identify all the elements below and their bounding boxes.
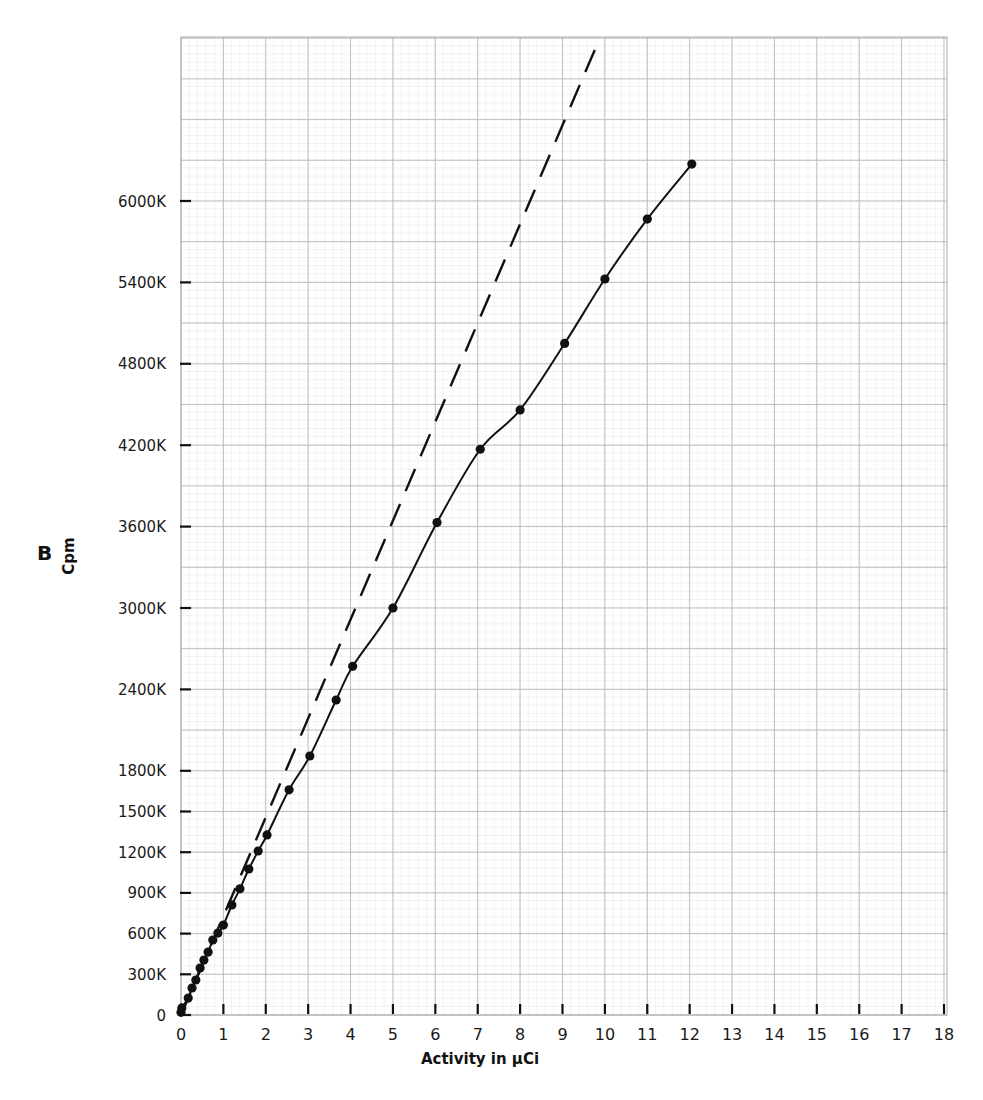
data-point xyxy=(687,159,696,168)
plot-area: 0300K600K900K1200K1500K1800K2400K3000K36… xyxy=(118,37,954,1044)
data-point xyxy=(600,274,609,283)
y-tick-label: 1200K xyxy=(118,844,167,862)
data-point xyxy=(187,983,196,992)
panel-label: B xyxy=(37,541,52,565)
x-tick-label: 7 xyxy=(473,1025,483,1044)
y-tick-label: 4800K xyxy=(118,355,167,373)
data-point xyxy=(227,900,236,909)
y-tick-label: 600K xyxy=(128,925,168,943)
x-tick-label: 2 xyxy=(261,1025,271,1044)
data-point xyxy=(204,947,213,956)
x-tick-label: 9 xyxy=(557,1025,567,1044)
data-point xyxy=(235,884,244,893)
data-point xyxy=(177,1003,186,1012)
y-tick-label: 1500K xyxy=(118,803,167,821)
y-tick-label: 0 xyxy=(156,1007,166,1025)
x-tick-label: 12 xyxy=(679,1025,699,1044)
data-point xyxy=(184,993,193,1002)
y-axis-title: Cpm xyxy=(60,537,78,574)
y-tick-label: 2400K xyxy=(118,681,167,699)
y-tick-label: 900K xyxy=(128,884,168,902)
x-tick-label: 1 xyxy=(218,1025,228,1044)
y-tick-label: 3600K xyxy=(118,518,167,536)
data-point xyxy=(219,920,228,929)
data-point xyxy=(199,955,208,964)
data-point xyxy=(432,518,441,527)
data-point xyxy=(254,846,263,855)
data-point xyxy=(244,864,253,873)
y-tick-label: 6000K xyxy=(118,193,167,211)
data-point xyxy=(476,445,485,454)
data-point xyxy=(643,214,652,223)
y-tick-label: 4200K xyxy=(118,437,167,455)
data-point xyxy=(213,928,222,937)
x-tick-label: 6 xyxy=(430,1025,440,1044)
x-tick-label: 14 xyxy=(764,1025,784,1044)
y-tick-label: 5400K xyxy=(118,274,167,292)
x-tick-label: 11 xyxy=(637,1025,657,1044)
x-tick-label: 17 xyxy=(891,1025,911,1044)
data-point xyxy=(284,785,293,794)
x-tick-label: 16 xyxy=(849,1025,869,1044)
data-point xyxy=(560,339,569,348)
x-tick-label: 4 xyxy=(345,1025,355,1044)
data-point xyxy=(348,662,357,671)
y-tick-label: 300K xyxy=(128,966,168,984)
x-axis-title: Activity in µCi xyxy=(421,1050,539,1068)
x-tick-label: 18 xyxy=(934,1025,954,1044)
chart: 0300K600K900K1200K1500K1800K2400K3000K36… xyxy=(0,0,983,1100)
data-point xyxy=(191,975,200,984)
data-point xyxy=(262,830,271,839)
x-tick-label: 13 xyxy=(722,1025,742,1044)
data-point xyxy=(388,603,397,612)
data-point xyxy=(332,695,341,704)
data-point xyxy=(195,963,204,972)
x-tick-label: 10 xyxy=(595,1025,615,1044)
data-point xyxy=(516,405,525,414)
y-axis-ticks: 0300K600K900K1200K1500K1800K2400K3000K36… xyxy=(118,193,191,1025)
x-tick-label: 5 xyxy=(388,1025,398,1044)
y-tick-label: 1800K xyxy=(118,762,167,780)
data-point xyxy=(305,751,314,760)
x-tick-label: 8 xyxy=(515,1025,525,1044)
x-tick-label: 0 xyxy=(176,1025,186,1044)
x-tick-label: 15 xyxy=(807,1025,827,1044)
x-tick-label: 3 xyxy=(303,1025,313,1044)
y-tick-label: 3000K xyxy=(118,600,167,618)
